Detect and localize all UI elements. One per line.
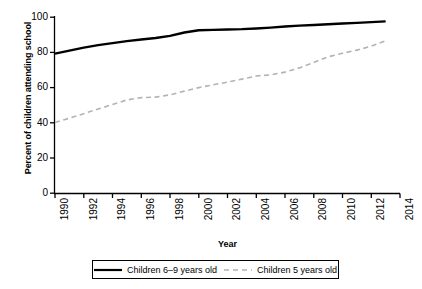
x-tick-label: 2004 bbox=[261, 198, 271, 238]
x-tick-label: 2010 bbox=[347, 198, 357, 238]
chart-legend: Children 6–9 years old Children 5 years … bbox=[92, 260, 339, 279]
legend-label: Children 5 years old bbox=[257, 265, 337, 275]
legend-swatch-dashed bbox=[224, 266, 252, 274]
x-tick-label: 2006 bbox=[290, 198, 300, 238]
x-tick-label: 1994 bbox=[117, 198, 127, 238]
legend-entry-children-5: Children 5 years old bbox=[224, 265, 337, 275]
x-tick-label: 2012 bbox=[376, 198, 386, 238]
x-tick-label: 1998 bbox=[175, 198, 185, 238]
x-tick-label: 2008 bbox=[318, 198, 328, 238]
legend-entry-children-6-9: Children 6–9 years old bbox=[94, 265, 217, 275]
legend-label: Children 6–9 years old bbox=[127, 265, 217, 275]
x-tick-label: 1990 bbox=[60, 198, 70, 238]
x-tick-label: 1992 bbox=[89, 198, 99, 238]
chart-figure: Percent of children attending school 100… bbox=[0, 0, 422, 289]
x-axis-title: Year bbox=[55, 239, 400, 249]
x-tick-label: 2014 bbox=[405, 198, 415, 238]
legend-swatch-solid bbox=[94, 266, 122, 274]
x-tick-label: 2000 bbox=[204, 198, 214, 238]
x-tick-label: 2002 bbox=[232, 198, 242, 238]
x-tick-label: 1996 bbox=[146, 198, 156, 238]
